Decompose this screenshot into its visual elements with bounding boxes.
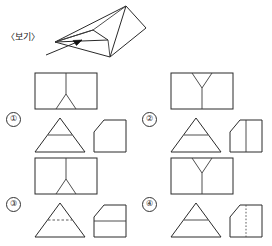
figure-label: 〈보기〉: [6, 30, 40, 43]
option-1-side-shape: [94, 120, 126, 152]
option-3-cross-section-triangle: [35, 203, 85, 237]
option-1-number: ①: [6, 112, 21, 127]
option-1-net-rectangle: [35, 73, 97, 109]
prism-illustration: [38, 0, 156, 70]
option-4[interactable]: ④: [136, 155, 272, 243]
option-2-side-shape: [230, 120, 262, 152]
option-4-number: ④: [142, 197, 157, 212]
option-2-cross-section-triangle: [171, 118, 221, 152]
option-3-net-rectangle: [35, 158, 97, 194]
triangular-prism-body: [55, 6, 146, 57]
option-2-number: ②: [142, 112, 157, 127]
option-3[interactable]: ③: [0, 155, 136, 243]
option-4-cross-section-triangle: [171, 203, 221, 237]
question-figure-page: 〈보기〉: [0, 0, 272, 246]
option-1-cross-section-triangle: [35, 118, 85, 152]
option-3-side-shape: [94, 205, 126, 237]
option-2-net-rectangle: [171, 73, 233, 109]
option-2[interactable]: ②: [136, 70, 272, 158]
option-4-side-shape: [230, 205, 262, 237]
option-4-net-rectangle: [171, 158, 233, 194]
option-3-number: ③: [6, 197, 21, 212]
option-1[interactable]: ①: [0, 70, 136, 158]
